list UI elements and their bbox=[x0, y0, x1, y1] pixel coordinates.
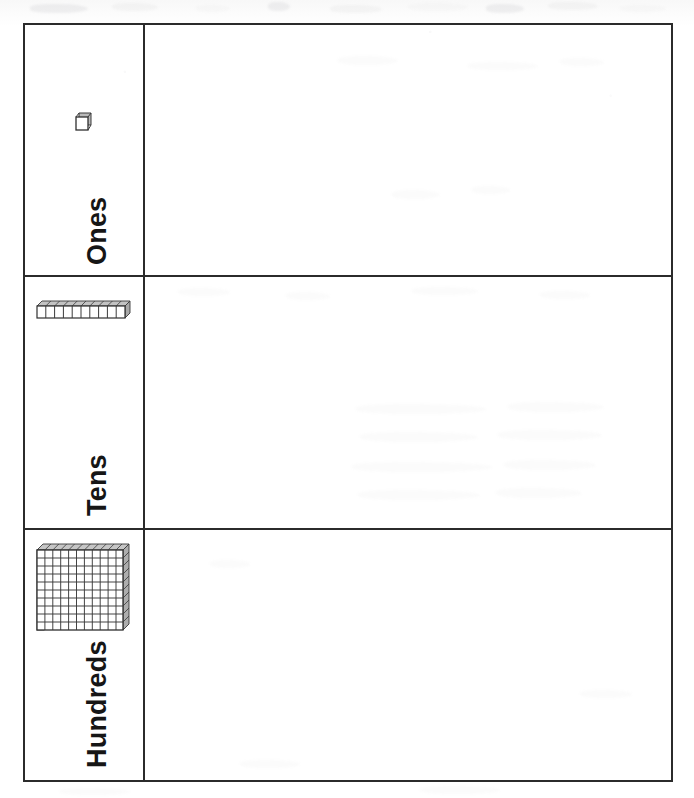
table-row: Hundreds bbox=[25, 530, 671, 780]
work-area-hundreds[interactable] bbox=[145, 530, 671, 780]
table-row: Tens bbox=[25, 277, 671, 529]
work-area-ones[interactable] bbox=[145, 25, 671, 275]
place-value-label-tens: Tens bbox=[84, 454, 111, 516]
unit-cube-icon bbox=[76, 113, 92, 131]
place-value-chart: Ones bbox=[23, 23, 673, 782]
ten-rod-icon bbox=[37, 301, 131, 321]
work-area-tens[interactable] bbox=[145, 277, 671, 527]
hundred-flat-icon bbox=[37, 544, 131, 634]
place-value-label-cell-ones: Ones bbox=[25, 25, 145, 275]
place-value-label-hundreds: Hundreds bbox=[84, 640, 111, 768]
table-row: Ones bbox=[25, 25, 671, 277]
place-value-label-cell-tens: Tens bbox=[25, 277, 145, 527]
place-value-label-cell-hundreds: Hundreds bbox=[25, 530, 145, 780]
place-value-label-ones: Ones bbox=[84, 197, 111, 265]
